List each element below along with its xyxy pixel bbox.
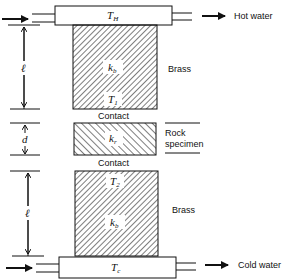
rock-label-line2: specimen	[165, 139, 204, 149]
divided-bar-diagram: TH Hot water kb T1 Brass ℓ Contact kr Ro…	[0, 0, 285, 280]
brass-label-top: Brass	[168, 64, 192, 74]
contact-label-top: Contact	[98, 111, 130, 121]
cold-water-label: Cold water	[238, 260, 281, 270]
brass-label-bottom: Brass	[172, 205, 196, 215]
length-bottom-symbol: ℓ	[25, 207, 30, 219]
length-top-symbol: ℓ	[21, 62, 26, 74]
contact-label-bottom: Contact	[98, 158, 130, 168]
hot-water-label: Hot water	[234, 11, 273, 21]
thickness-symbol: d	[22, 133, 28, 145]
rock-label-line1: Rock	[165, 128, 186, 138]
